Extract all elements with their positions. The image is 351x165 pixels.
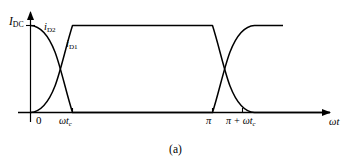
x-tick-label-omega-t-c: ωtc [59, 116, 72, 128]
x-axis-label: ωt [329, 117, 339, 128]
wtc-main: ωt [59, 115, 69, 126]
id1-sub: D1 [69, 43, 78, 51]
idc-sub: DC [13, 20, 24, 29]
curve-label-id2: iD2 [44, 22, 56, 34]
y-axis-level-label-idc: IDC [9, 16, 24, 29]
pi-wtc-main: π + ωt [226, 115, 253, 126]
x-tick-label-pi-plus-omega-t-c: π + ωtc [226, 116, 256, 128]
curve-label-id1: iD1 [66, 39, 78, 51]
x-tick-label-pi: π [206, 116, 211, 127]
x-tick-label-origin: 0 [36, 115, 42, 126]
pi-wtc-sub: c [253, 120, 256, 127]
wtc-sub: c [69, 120, 72, 127]
id2-sub: D2 [47, 26, 56, 34]
figure-caption: (a) [0, 143, 351, 155]
figure-container: IDC iD2 iD1 0 ωtc π π + ωtc ωt (a) [0, 0, 351, 165]
